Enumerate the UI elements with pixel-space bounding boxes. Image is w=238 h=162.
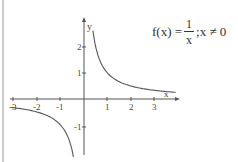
curve-negative-branch: [11, 107, 73, 156]
formula-numerator: 1: [184, 18, 194, 32]
y-tick-label: 2: [77, 42, 82, 52]
x-tick-label: -2: [33, 102, 41, 112]
function-formula: f(x) = 1 x ;x ≠ 0: [152, 18, 226, 46]
formula-condition: ;x ≠ 0: [196, 24, 226, 40]
y-axis-arrow-icon: [82, 17, 86, 22]
x-axis-label: x: [164, 89, 169, 99]
y-axis-label: y: [87, 21, 92, 32]
x-tick-label: 2: [129, 102, 134, 112]
formula-denominator: x: [186, 32, 192, 46]
x-tick-label: -3: [9, 102, 17, 112]
x-tick-label: -1: [56, 102, 64, 112]
y-tick-label: 1: [77, 68, 82, 78]
x-tick-label: 1: [105, 102, 110, 112]
y-tick-label: -1: [74, 122, 82, 132]
x-tick-label: 3: [152, 102, 157, 112]
x-axis-arrow-icon: [175, 97, 180, 101]
formula-fraction: 1 x: [184, 18, 194, 46]
formula-lhs: f(x) =: [152, 24, 182, 40]
